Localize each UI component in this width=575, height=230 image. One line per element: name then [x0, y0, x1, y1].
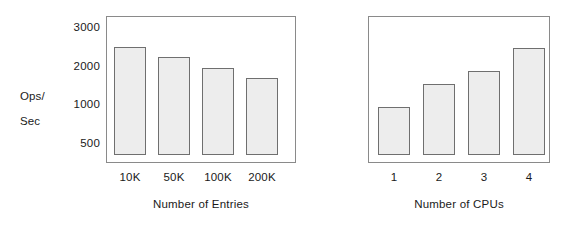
bar-entries-50k[interactable] — [158, 57, 190, 155]
y-axis-title-line-2: Sec — [20, 115, 40, 127]
figure-canvas: Ops/ Sec 3000 2000 1000 500 10K 50K 100K… — [0, 0, 575, 230]
x-tick-label-cpus-0: 1 — [372, 171, 416, 183]
y-tick-label-2000: 2000 — [52, 60, 100, 72]
cpus-x-axis-title: Number of CPUs — [368, 198, 550, 211]
bar-cpus-1[interactable] — [378, 107, 410, 155]
entries-x-axis-title: Number of Entries — [106, 198, 296, 211]
x-tick-label-entries-3: 200K — [240, 171, 284, 183]
x-tick-label-entries-2: 100K — [196, 171, 240, 183]
x-tick-label-cpus-3: 4 — [507, 171, 551, 183]
x-tick-label-entries-0: 10K — [108, 171, 152, 183]
bar-cpus-2[interactable] — [423, 84, 455, 155]
bar-entries-10k[interactable] — [114, 47, 146, 155]
y-axis-title-line-1: Ops/ — [20, 90, 45, 102]
x-tick-label-cpus-2: 3 — [462, 171, 506, 183]
x-tick-label-entries-1: 50K — [152, 171, 196, 183]
bar-entries-100k[interactable] — [202, 68, 234, 155]
bar-cpus-4[interactable] — [513, 48, 545, 155]
y-tick-label-500: 500 — [52, 137, 100, 149]
x-tick-label-cpus-1: 2 — [417, 171, 461, 183]
y-tick-label-1000: 1000 — [52, 98, 100, 110]
y-tick-label-3000: 3000 — [52, 21, 100, 33]
bar-entries-200k[interactable] — [246, 78, 278, 155]
bar-cpus-3[interactable] — [468, 71, 500, 155]
